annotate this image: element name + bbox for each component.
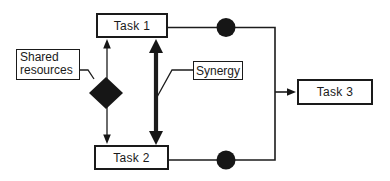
thin-arrow-down-head-icon	[103, 135, 111, 145]
thick-arrow-up-head-icon	[149, 39, 163, 53]
shared-resources-label: Shared resources	[20, 50, 73, 77]
shared-resources-diamond-icon	[89, 77, 123, 109]
task1-label: Task 1	[114, 19, 150, 33]
task3-label: Task 3	[317, 85, 353, 99]
shared-resources-leader-line	[80, 70, 94, 79]
task3-box: Task 3	[297, 79, 373, 105]
task2-label: Task 2	[113, 151, 149, 165]
junction-circle-bottom-icon	[217, 151, 236, 170]
diagram-canvas: Task 1 Task 2 Task 3 Shared resources Sy…	[0, 0, 390, 181]
task2-box: Task 2	[94, 145, 169, 170]
task1-box: Task 1	[96, 13, 168, 38]
right-arrow-icon	[287, 88, 296, 96]
synergy-leader-line	[157, 70, 193, 97]
flow-connector-line	[168, 28, 275, 161]
junction-circle-top-icon	[217, 18, 236, 37]
synergy-box: Synergy	[193, 61, 243, 80]
synergy-label: Synergy	[196, 64, 240, 78]
thin-arrow-up-head-icon	[103, 39, 111, 49]
thick-arrow-down-head-icon	[149, 131, 163, 145]
shared-resources-box: Shared resources	[16, 49, 80, 80]
